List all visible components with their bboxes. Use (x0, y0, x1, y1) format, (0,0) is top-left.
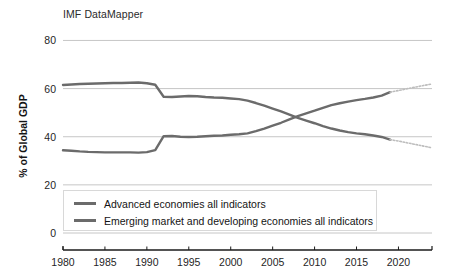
series-line-advanced-economies (63, 83, 390, 140)
legend-label: Emerging market and developing economies… (104, 215, 373, 227)
x-axis-tick-label: 2020 (387, 256, 410, 268)
plot-area (0, 0, 461, 279)
series-line-emerging-economies (63, 92, 390, 152)
chart-container: IMF DataMapper % of Global GDP 020406080… (0, 0, 461, 279)
x-axis-tick-label: 1990 (135, 256, 158, 268)
legend-item-emerging-economies[interactable]: Emerging market and developing economies… (74, 212, 373, 229)
legend-line-icon (74, 219, 96, 222)
x-axis-tick-label: 2010 (303, 256, 326, 268)
legend-line-icon (74, 202, 96, 205)
legend-label: Advanced economies all indicators (104, 198, 266, 210)
legend: Advanced economies all indicators Emergi… (63, 190, 377, 231)
series-line-emerging-economies-projection (390, 84, 432, 92)
x-axis-tick-label: 2015 (345, 256, 368, 268)
legend-item-advanced-economies[interactable]: Advanced economies all indicators (74, 195, 266, 212)
x-axis-tick-label: 1980 (51, 256, 74, 268)
x-axis-tick-label: 2000 (219, 256, 242, 268)
x-axis-tick-label: 1995 (177, 256, 200, 268)
series-line-advanced-economies-projection (390, 140, 432, 148)
x-axis-tick-label: 1985 (93, 256, 116, 268)
x-axis-tick-label: 2005 (261, 256, 284, 268)
